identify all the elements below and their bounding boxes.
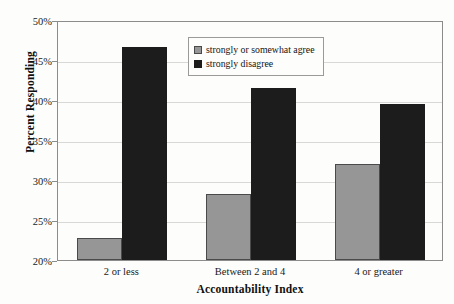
legend-item: strongly disagree — [194, 57, 318, 70]
legend-swatch-agree-icon — [194, 46, 202, 54]
x-axis-tick-label: Between 2 and 4 — [180, 266, 320, 277]
y-axis-tick-label: 20% — [14, 256, 52, 267]
y-axis-tick-label: 30% — [14, 176, 52, 187]
x-axis-tick-label: 4 or greater — [309, 266, 449, 277]
bar-disagree — [380, 104, 425, 260]
legend-item-label: strongly or somewhat agree — [206, 44, 315, 55]
bar-agree — [206, 194, 251, 260]
y-axis-title: Percent Responding — [24, 27, 36, 177]
bar-disagree — [122, 47, 167, 260]
bar-agree — [77, 238, 122, 260]
legend-item-label: strongly disagree — [206, 58, 273, 69]
legend-swatch-disagree-icon — [194, 60, 202, 68]
legend: strongly or somewhat agreestrongly disag… — [188, 37, 324, 76]
bar-disagree — [251, 88, 296, 260]
gridline — [58, 102, 442, 103]
x-axis-tick-label: 2 or less — [51, 266, 191, 277]
bar-chart: Percent Responding 50%45%40%35%30%25%20%… — [0, 0, 454, 304]
legend-item: strongly or somewhat agree — [194, 43, 318, 56]
y-axis-tick-label: 50% — [14, 16, 52, 27]
bar-agree — [335, 164, 380, 260]
x-axis-title: Accountability Index — [57, 283, 443, 295]
y-axis-tick-label: 25% — [14, 216, 52, 227]
y-axis-tick-mark — [52, 261, 57, 262]
